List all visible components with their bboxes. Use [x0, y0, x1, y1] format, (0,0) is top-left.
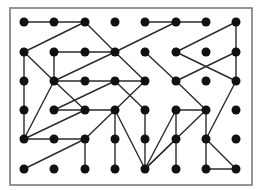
grid-dot-r5-c3[interactable]: [111, 165, 120, 174]
grid-dot-r1-c1[interactable]: [50, 48, 59, 57]
grid-dot-r0-c7[interactable]: [232, 18, 241, 27]
grid-dot-r3-c4[interactable]: [141, 106, 150, 115]
grid-dot-r0-c0[interactable]: [20, 18, 29, 27]
grid-dot-r5-c6[interactable]: [202, 165, 211, 174]
grid-dot-r1-c4[interactable]: [141, 48, 150, 57]
grid-dot-r4-c2[interactable]: [81, 135, 90, 144]
grid-dot-r2-c1[interactable]: [50, 77, 59, 86]
grid-dot-r0-c2[interactable]: [81, 18, 90, 27]
grid-dot-r1-c5[interactable]: [172, 48, 181, 57]
grid-dot-r2-c3[interactable]: [111, 77, 120, 86]
grid-dot-r5-c1[interactable]: [50, 165, 59, 174]
grid-dot-r5-c4[interactable]: [141, 165, 150, 174]
grid-dot-r1-c6[interactable]: [202, 48, 211, 57]
grid-dot-r2-c7[interactable]: [232, 77, 241, 86]
grid-dot-r3-c6[interactable]: [202, 106, 211, 115]
grid-dot-r3-c0[interactable]: [20, 106, 29, 115]
grid-dot-r4-c4[interactable]: [141, 135, 150, 144]
grid-dot-r3-c2[interactable]: [81, 106, 90, 115]
grid-dot-r0-c6[interactable]: [202, 18, 211, 27]
grid-dot-r2-c4[interactable]: [141, 77, 150, 86]
grid-dot-r5-c5[interactable]: [172, 165, 181, 174]
grid-dot-r4-c7[interactable]: [232, 135, 241, 144]
grid-dot-r0-c5[interactable]: [172, 18, 181, 27]
grid-dot-r3-c3[interactable]: [111, 106, 120, 115]
grid-dot-r5-c0[interactable]: [20, 165, 29, 174]
grid-dot-r0-c1[interactable]: [50, 18, 59, 27]
grid-dot-r4-c0[interactable]: [20, 135, 29, 144]
grid-dot-r1-c0[interactable]: [20, 48, 29, 57]
grid-dot-r2-c0[interactable]: [20, 77, 29, 86]
grid-dot-r4-c3[interactable]: [111, 135, 120, 144]
grid-dot-r1-c3[interactable]: [111, 48, 120, 57]
grid-dot-r4-c1[interactable]: [50, 135, 59, 144]
grid-dot-r0-c3[interactable]: [111, 18, 120, 27]
grid-dot-r2-c6[interactable]: [202, 77, 211, 86]
grid-dot-r3-c7[interactable]: [232, 106, 241, 115]
grid-dot-r4-c6[interactable]: [202, 135, 211, 144]
grid-dot-r1-c2[interactable]: [81, 48, 90, 57]
grid-dot-r2-c2[interactable]: [81, 77, 90, 86]
grid-dot-r5-c7[interactable]: [232, 165, 241, 174]
puzzle-board: [0, 0, 257, 190]
grid-dot-r1-c7[interactable]: [232, 48, 241, 57]
grid-dot-r3-c5[interactable]: [172, 106, 181, 115]
grid-dot-r0-c4[interactable]: [141, 18, 150, 27]
grid-dot-r4-c5[interactable]: [172, 135, 181, 144]
grid-dot-r3-c1[interactable]: [50, 106, 59, 115]
grid-dot-r5-c2[interactable]: [81, 165, 90, 174]
grid-dot-r2-c5[interactable]: [172, 77, 181, 86]
